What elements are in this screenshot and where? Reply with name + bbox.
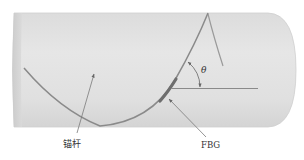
fbg-label: FBG — [201, 141, 220, 150]
angle-theta-label: θ — [201, 66, 206, 75]
cylinder — [13, 13, 297, 127]
anchor-rod-label: 锚杆 — [63, 140, 81, 149]
anchor-rod-diagram — [0, 0, 304, 160]
